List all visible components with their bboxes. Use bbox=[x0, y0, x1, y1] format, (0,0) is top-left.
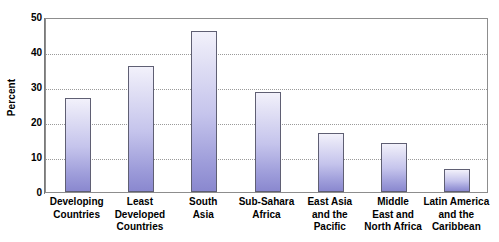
bar-chart: Percent 01020304050 Developing Countries… bbox=[0, 0, 499, 242]
y-axis-tick-labels: 01020304050 bbox=[22, 0, 42, 195]
bar bbox=[65, 98, 91, 193]
bar bbox=[255, 92, 281, 192]
y-axis-title-label: Percent bbox=[7, 79, 18, 116]
x-axis-tick-labels: Developing CountriesLeast Developed Coun… bbox=[45, 196, 488, 242]
gridline bbox=[46, 54, 487, 55]
bar bbox=[191, 31, 217, 192]
y-axis-tick-label: 10 bbox=[22, 153, 42, 163]
y-axis-tick-label: 50 bbox=[22, 13, 42, 23]
bar bbox=[444, 169, 470, 192]
y-axis-tick-label: 40 bbox=[22, 48, 42, 58]
bar bbox=[128, 66, 154, 192]
plot-area bbox=[45, 18, 488, 193]
y-axis-tick-label: 30 bbox=[22, 83, 42, 93]
gridline bbox=[46, 89, 487, 90]
bar bbox=[318, 133, 344, 193]
y-axis-title: Percent bbox=[0, 0, 24, 195]
bar bbox=[381, 143, 407, 192]
y-axis-tick-label: 20 bbox=[22, 118, 42, 128]
x-axis-tick-label: Latin America and the Caribbean bbox=[419, 196, 493, 234]
